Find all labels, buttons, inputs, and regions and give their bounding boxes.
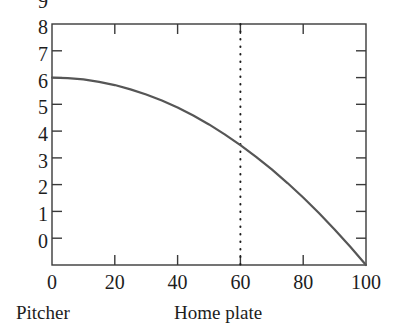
- y-tick-label-7: 7: [22, 44, 48, 64]
- trajectory-curve: [52, 78, 366, 265]
- y-tick-label-2: 2: [22, 177, 48, 197]
- y-tick-label-0: 0: [22, 231, 48, 251]
- x-axis-ticks: [115, 255, 303, 265]
- y-tick-label-3: 3: [22, 151, 48, 171]
- right-axis-ticks: [356, 51, 366, 238]
- y-tick-label-8: 8: [22, 17, 48, 37]
- x-tick-label-100: 100: [341, 272, 391, 292]
- x-tick-label-0: 0: [27, 272, 77, 292]
- y-tick-label-6: 6: [22, 71, 48, 91]
- x-tick-label-60: 60: [215, 272, 265, 292]
- y-tick-label-9: 9: [22, 0, 48, 11]
- x-tick-label-40: 40: [153, 272, 203, 292]
- x-tick-label-80: 80: [278, 272, 328, 292]
- x-tick-label-20: 20: [90, 272, 140, 292]
- plot-frame: [52, 24, 366, 265]
- region-label-pitcher: Pitcher: [16, 303, 70, 322]
- y-tick-label-5: 5: [22, 97, 48, 117]
- y-tick-label-1: 1: [22, 204, 48, 224]
- top-axis-ticks: [115, 24, 303, 34]
- y-tick-label-4: 4: [22, 124, 48, 144]
- region-label-home-plate: Home plate: [174, 303, 262, 322]
- chart-figure: 0 1 2 3 4 5 6 7 8 9 0 20 40 60 80 100 Pi…: [0, 0, 393, 334]
